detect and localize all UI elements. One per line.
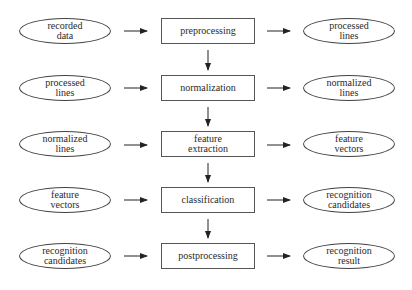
process-node-preprocessing: preprocessing <box>161 18 255 44</box>
node-label: preprocessing <box>180 26 236 36</box>
node-label: recognition result <box>326 246 372 266</box>
node-label: feature vectors <box>335 134 364 154</box>
process-node-postprocessing: postprocessing <box>161 243 255 269</box>
node-label: normalized lines <box>43 134 88 154</box>
input-node-processed-lines: processed lines <box>19 75 111 101</box>
node-label: normalized lines <box>327 78 372 98</box>
input-arrows <box>124 31 147 256</box>
output-arrows <box>267 31 290 256</box>
node-label: recognition candidates <box>42 246 88 266</box>
node-label: recorded data <box>48 21 83 41</box>
input-node-recognition-candidates: recognition candidates <box>19 243 111 269</box>
output-node-normalized-lines: normalized lines <box>303 75 395 101</box>
input-node-recorded-data: recorded data <box>19 18 111 44</box>
output-node-recognition-result: recognition result <box>303 243 395 269</box>
process-node-feature-extraction: feature extraction <box>161 131 255 157</box>
node-label: processed lines <box>329 21 368 41</box>
output-node-processed-lines: processed lines <box>303 18 395 44</box>
input-node-normalized-lines: normalized lines <box>19 131 111 157</box>
output-node-feature-vectors: feature vectors <box>303 131 395 157</box>
node-label: feature vectors <box>51 190 80 210</box>
node-label: feature extraction <box>188 134 228 154</box>
node-label: classification <box>182 195 235 205</box>
input-node-feature-vectors: feature vectors <box>19 187 111 213</box>
node-label: postprocessing <box>178 251 237 261</box>
process-node-normalization: normalization <box>161 75 255 101</box>
process-node-classification: classification <box>161 187 255 213</box>
flowchart-diagram: recorded data preprocessing processed li… <box>0 0 412 290</box>
node-label: processed lines <box>45 78 84 98</box>
node-label: normalization <box>180 83 236 93</box>
output-node-recognition-candidates: recognition candidates <box>303 187 395 213</box>
node-label: recognition candidates <box>326 190 372 210</box>
